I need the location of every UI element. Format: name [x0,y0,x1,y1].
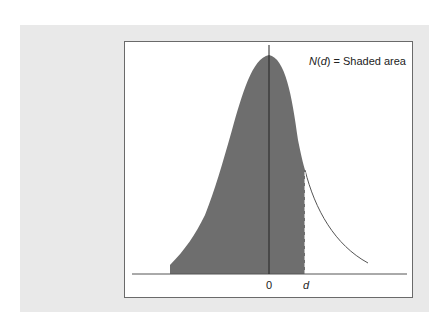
chart-title: N(d) = Shaded area [309,55,406,67]
x-tick-d: d [303,279,309,291]
x-tick-zero: 0 [266,279,272,291]
density-plot [0,0,429,321]
shaded-area [170,55,305,274]
density-curve-tail [305,170,368,263]
